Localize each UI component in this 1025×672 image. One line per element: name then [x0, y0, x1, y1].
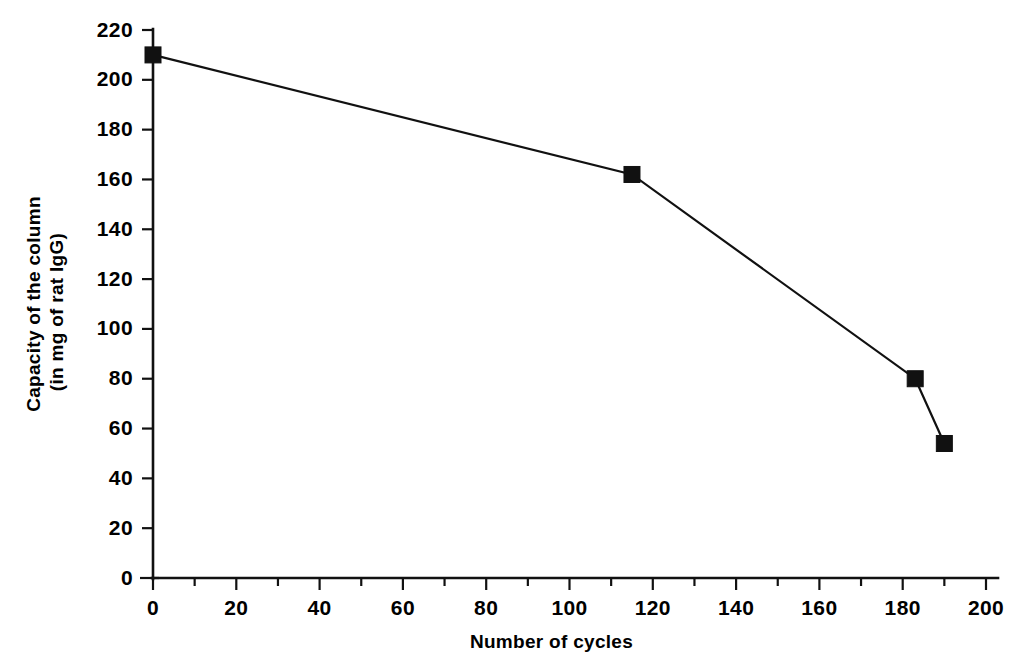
x-tick-label-180: 180	[885, 596, 921, 619]
y-axis: 020406080100120140160180200220	[97, 18, 159, 589]
x-tick-label-80: 80	[474, 596, 498, 619]
y-tick-label-120: 120	[97, 267, 133, 290]
chart-figure: 020406080100120140160180200220 020406080…	[0, 0, 1025, 672]
series-line-0	[153, 55, 944, 444]
data-point-marker	[145, 47, 161, 63]
y-tick-label-0: 0	[121, 566, 133, 589]
y-tick-label-80: 80	[109, 366, 133, 389]
x-tick-label-40: 40	[308, 596, 332, 619]
x-tick-label-0: 0	[147, 596, 159, 619]
x-tick-label-100: 100	[551, 596, 587, 619]
x-tick-label-140: 140	[718, 596, 754, 619]
x-axis-title: Number of cycles	[470, 631, 633, 652]
y-tick-label-220: 220	[97, 18, 133, 41]
data-point-marker	[624, 166, 640, 182]
y-tick-label-160: 160	[97, 167, 133, 190]
data-point-marker	[907, 371, 923, 387]
x-tick-label-120: 120	[635, 596, 671, 619]
y-tick-label-180: 180	[97, 117, 133, 140]
y-axis-title-line2: (in mg of rat IgG)	[46, 233, 67, 391]
y-axis-title-line1: Capacity of the column	[23, 196, 44, 412]
y-tick-label-140: 140	[97, 217, 133, 240]
y-tick-label-20: 20	[109, 516, 133, 539]
y-tick-label-200: 200	[97, 67, 133, 90]
x-tick-label-200: 200	[968, 596, 1004, 619]
x-tick-label-160: 160	[801, 596, 837, 619]
y-tick-label-100: 100	[97, 316, 133, 339]
data-point-marker	[936, 435, 952, 451]
x-tick-label-20: 20	[224, 596, 248, 619]
line-chart-canvas: 020406080100120140160180200220 020406080…	[0, 0, 1025, 672]
y-tick-label-60: 60	[109, 416, 133, 439]
x-tick-label-60: 60	[391, 596, 415, 619]
data-series	[145, 47, 952, 452]
y-tick-label-40: 40	[109, 466, 133, 489]
x-axis: 020406080100120140160180200	[147, 578, 1004, 619]
